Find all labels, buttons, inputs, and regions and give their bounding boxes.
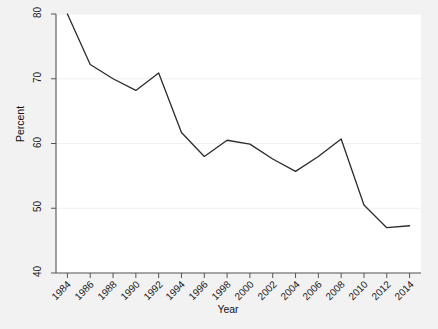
- x-axis-title-text: Year: [217, 303, 238, 315]
- y-tick-label: 60: [32, 131, 43, 153]
- y-tick-label: 70: [32, 66, 43, 88]
- chart-figure: 4050607080198419861988199019921994199619…: [0, 0, 438, 329]
- y-tick-label: 50: [32, 196, 43, 218]
- x-axis-title: Year: [0, 303, 438, 315]
- y-axis-title: Percent: [14, 106, 26, 142]
- y-tick-label: 40: [32, 261, 43, 283]
- y-tick-label: 80: [32, 2, 43, 24]
